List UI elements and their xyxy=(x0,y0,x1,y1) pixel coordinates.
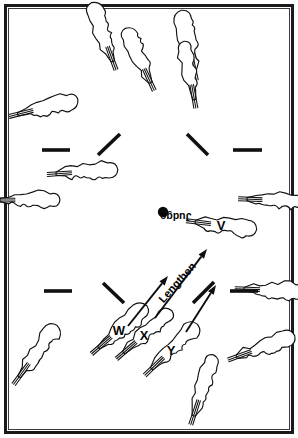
rowing-formation-figure: Judge Lengthen VWXY xyxy=(0,0,298,438)
boat-left-1 xyxy=(7,90,80,126)
boat-w-oar-2 xyxy=(92,337,111,354)
boat-top-4-hull xyxy=(175,40,202,101)
boat-label-x: X xyxy=(140,328,149,343)
boat-label-y: Y xyxy=(167,343,176,358)
boat-left-1-hull xyxy=(15,90,80,124)
boat-left-3 xyxy=(0,190,60,209)
judge-marker-group: Judge xyxy=(158,207,192,223)
boat-left-4 xyxy=(6,320,65,390)
dash-left-lowdiag xyxy=(103,283,124,303)
boat-v-hull xyxy=(194,213,258,240)
arrow-y xyxy=(186,285,216,332)
boat-label-v: V xyxy=(217,218,226,233)
boat-right-1 xyxy=(238,190,298,210)
boat-left-2 xyxy=(47,160,119,183)
boat-right-3 xyxy=(225,327,298,369)
boat-top-2 xyxy=(118,24,164,94)
boat-label-w: W xyxy=(113,323,126,338)
boat-top-2-hull xyxy=(118,24,160,86)
boat-top-1 xyxy=(83,0,126,73)
boat-bottom-1 xyxy=(183,352,222,427)
diagram-svg: Judge Lengthen VWXY xyxy=(0,0,298,438)
boat-bottom-1-hull xyxy=(185,352,221,418)
boat-top-4 xyxy=(175,40,203,110)
diagram-canvas: Judge Lengthen VWXY xyxy=(0,0,298,438)
boat-right-3-hull xyxy=(233,327,298,366)
dash-right-diag xyxy=(187,134,208,155)
boat-left-4-oar-2 xyxy=(14,364,29,385)
boats-layer xyxy=(0,0,298,427)
boat-top-1-hull xyxy=(83,0,123,65)
judge-label: Judge xyxy=(160,211,191,223)
boat-right-1-hull xyxy=(247,191,298,211)
dash-left-diag xyxy=(98,134,120,155)
boat-left-3-hull xyxy=(0,190,60,209)
